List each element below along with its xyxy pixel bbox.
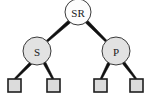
node-sr-label: SR	[71, 7, 85, 19]
node-s-label: S	[34, 46, 40, 58]
leaves-layer	[8, 79, 143, 92]
leaf-node-4-rect	[130, 79, 143, 92]
edge-p-to-leaf-4	[122, 61, 137, 79]
edge-sr-to-p	[85, 20, 109, 44]
edge-sr-to-s	[44, 20, 71, 44]
edge-p-to-leaf-3	[100, 62, 110, 79]
node-p[interactable]: P	[102, 37, 130, 65]
node-sr[interactable]: SR	[65, 0, 91, 25]
leaf-node-3[interactable]	[94, 79, 107, 92]
leaf-node-2[interactable]	[47, 79, 60, 92]
nodes-layer: SRSP	[23, 0, 130, 65]
leaf-node-2-rect	[47, 79, 60, 92]
tree-diagram-svg: SRSP	[0, 0, 154, 108]
leaf-node-1[interactable]	[8, 79, 21, 92]
edge-s-to-leaf-2	[43, 61, 54, 79]
leaf-node-3-rect	[94, 79, 107, 92]
tree-diagram-canvas: SRSP	[0, 0, 154, 108]
edge-s-to-leaf-1	[14, 62, 32, 80]
leaf-node-4[interactable]	[130, 79, 143, 92]
node-s[interactable]: S	[23, 37, 51, 65]
leaf-node-1-rect	[8, 79, 21, 92]
node-p-label: P	[113, 46, 119, 58]
